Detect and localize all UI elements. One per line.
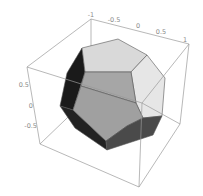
tick-label: -0.5: [24, 122, 37, 130]
tick-label: 0: [29, 102, 33, 110]
tick-label: 1: [183, 36, 187, 44]
tick-label: 0: [136, 22, 140, 30]
top-axis-ticks: -1 -0.5 0 0.5 1: [88, 11, 187, 44]
left-axis-ticks: 0.5 0 -0.5: [19, 81, 37, 130]
dodecahedron: [60, 39, 165, 150]
tick-label: 0.5: [156, 28, 166, 36]
tick-label: 0.5: [19, 81, 29, 89]
dodecahedron-plot: -1 -0.5 0 0.5 1 0.5 0 -0.5: [0, 0, 203, 196]
plot-canvas: -1 -0.5 0 0.5 1 0.5 0 -0.5: [0, 0, 203, 196]
tick-label: -0.5: [108, 16, 121, 24]
tick-label: -1: [88, 11, 94, 19]
